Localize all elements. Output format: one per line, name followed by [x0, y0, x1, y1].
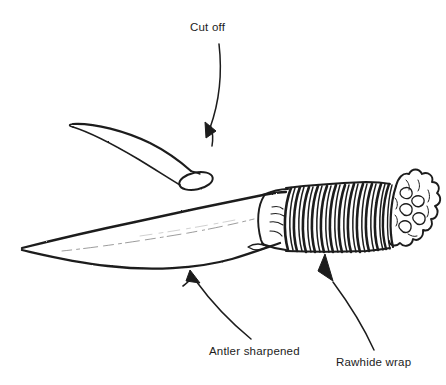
annotation-arrows: [183, 44, 374, 350]
burr-texture-4: [427, 206, 429, 217]
burr-inner-lobe-1: [400, 188, 412, 199]
burr-inner-lobe-5: [399, 221, 411, 233]
antler-burr-group: [389, 170, 440, 246]
blade-cutting-edge: [22, 243, 280, 269]
handle-shoulder-curve: [258, 196, 264, 245]
burr-texture-5: [408, 234, 417, 236]
wrap-band: [391, 186, 396, 247]
handle-shading-arc-4: [270, 231, 282, 236]
handle-shading-arc-3: [270, 222, 283, 225]
burr-texture-7: [395, 215, 397, 226]
cut-off-arrow-head-tail: [211, 127, 213, 146]
blade-group: [22, 192, 286, 269]
blade-grain-line: [140, 219, 240, 236]
burr-inner-lobe-2: [412, 196, 424, 207]
rawhide-wrap-coils: [285, 182, 396, 252]
burr-texture-2: [418, 180, 420, 191]
burr-texture-6: [395, 198, 397, 209]
blade-bevel-line: [62, 219, 254, 251]
label-cut-off: Cut off: [190, 21, 225, 34]
antler-knife-drawing: [0, 0, 446, 385]
burr-texture-1: [406, 180, 409, 190]
cut-tine-bottom-edge: [73, 127, 180, 185]
handle-ferrule-group: [248, 189, 288, 250]
rawhide-wrap-arrow: [318, 254, 374, 350]
burr-inner-lobe-3: [400, 204, 412, 216]
handle-shading-arc-2: [271, 214, 284, 216]
cut-tine-top-edge: [73, 124, 191, 171]
antler-sharpened-arrow-shaft: [196, 281, 251, 339]
burr-texture-3: [428, 190, 430, 202]
handle-lobe-bump: [248, 244, 268, 250]
cut-tine-tip: [70, 124, 73, 127]
label-antler-sharpened: Antler sharpened: [209, 345, 300, 358]
cut-off-arrow: [205, 44, 220, 146]
antler-sharpened-arrow: [183, 270, 251, 339]
burr-inner-lobe-4: [413, 213, 425, 225]
rawhide-wrap-arrow-shaft: [333, 282, 374, 350]
handle-shading-arc-1: [272, 207, 283, 209]
figure-canvas: Cut off Antler sharpened Rawhide wrap: [0, 0, 446, 385]
rawhide-wrap-arrow-head: [318, 254, 333, 281]
cut-off-arrow-shaft: [210, 44, 220, 128]
label-rawhide-wrap: Rawhide wrap: [336, 356, 411, 369]
blade-spine-edge: [22, 192, 286, 248]
cut-tine-group: [70, 124, 215, 193]
